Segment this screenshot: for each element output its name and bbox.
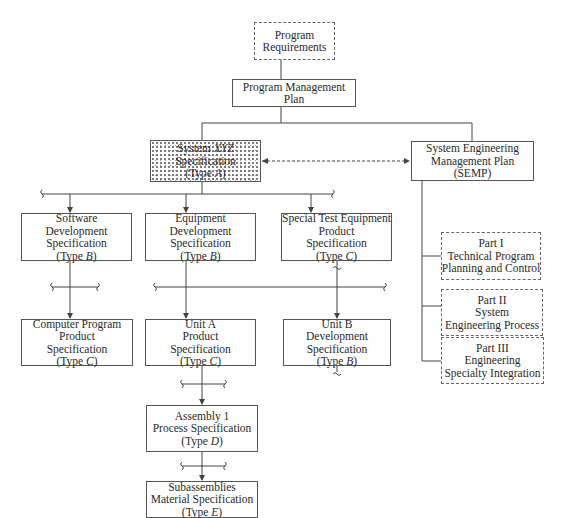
computer-program-product-spec-box: Computer Program Product Specification (… — [21, 319, 133, 366]
line: Product — [319, 225, 355, 238]
line: Part II — [477, 294, 506, 307]
line: Planning and Control — [442, 262, 540, 275]
program-requirements-line-1: Program — [275, 29, 315, 42]
type-label: (Type C) — [56, 355, 97, 368]
line: Unit A — [185, 318, 216, 331]
line: Equipment — [175, 212, 225, 225]
line: Specification — [46, 237, 107, 250]
line: Specification — [170, 343, 231, 356]
semp-part-3-box: Part III Engineering Specialty Integrati… — [441, 337, 544, 384]
program-management-plan-box: Program Management Plan — [232, 79, 356, 107]
line: Part III — [476, 342, 509, 355]
line: Special Test Equipment — [282, 212, 391, 225]
equipment-development-spec-box: Equipment Development Specification (Typ… — [145, 213, 256, 261]
assembly-1-process-spec-box: Assembly 1 Process Specification (Type D… — [146, 405, 258, 452]
type-label: (Type B) — [317, 355, 357, 368]
type-label: (Type C) — [316, 250, 357, 263]
line: Development — [170, 225, 232, 238]
line: Specification — [306, 237, 367, 250]
pmp-line-2: Plan — [284, 93, 304, 106]
semp-line-1: System Engineering — [426, 142, 519, 155]
semp-part-1-box: Part I Technical Program Planning and Co… — [441, 232, 541, 280]
semp-part-2-box: Part II System Engineering Process — [441, 289, 543, 336]
special-test-equipment-spec-box: Special Test Equipment Product Specifica… — [281, 213, 392, 261]
line: System — [475, 306, 509, 319]
type-label: (Type B) — [180, 250, 220, 263]
line: Specialty Integration — [444, 367, 540, 380]
semp-box: System Engineering Management Plan (SEMP… — [411, 141, 534, 181]
line: Product — [183, 330, 219, 343]
line: Product — [59, 330, 95, 343]
subassemblies-material-spec-box: Subassemblies Material Specification (Ty… — [146, 481, 258, 518]
line: Subassemblies — [168, 481, 236, 494]
type-label: (Type C) — [180, 355, 221, 368]
line: Part I — [478, 237, 503, 250]
line: Software — [56, 212, 98, 225]
unit-b-development-spec-box: Unit B Development Specification (Type B… — [283, 319, 391, 366]
semp-line-2: Management Plan — [431, 155, 514, 168]
type-label: (Type B) — [56, 250, 96, 263]
line: Process Specification — [153, 422, 252, 435]
unit-a-product-spec-box: Unit A Product Specification (Type C) — [145, 319, 256, 366]
line: Computer Program — [33, 318, 121, 331]
line: Specification — [47, 343, 108, 356]
semp-line-3: (SEMP) — [454, 167, 492, 180]
program-requirements-box: Program Requirements — [254, 22, 335, 60]
system-spec-line-2: Specification — [175, 155, 236, 168]
line: Engineering — [464, 354, 520, 367]
system-xyz-specification-box: System XYZ Specification (Type A) — [150, 140, 261, 182]
line: Material Specification — [151, 493, 254, 506]
line: Specification — [170, 237, 231, 250]
line: Development — [306, 330, 368, 343]
line: Assembly 1 — [175, 410, 230, 423]
line: Development — [46, 225, 108, 238]
type-label: (Type D) — [181, 435, 223, 448]
pmp-line-1: Program Management — [243, 81, 346, 94]
line: Specification — [307, 343, 368, 356]
line: Technical Program — [447, 250, 534, 263]
line: Engineering Process — [445, 319, 539, 332]
program-requirements-line-2: Requirements — [263, 41, 327, 54]
specification-tree-diagram: Program Requirements Program Management … — [0, 0, 566, 518]
type-label: (Type E) — [182, 506, 222, 518]
software-development-spec-box: Software Development Specification (Type… — [21, 213, 132, 261]
system-spec-line-1: System XYZ — [177, 142, 234, 155]
line: Unit B — [322, 318, 353, 331]
system-spec-line-3: (Type A) — [185, 167, 225, 180]
